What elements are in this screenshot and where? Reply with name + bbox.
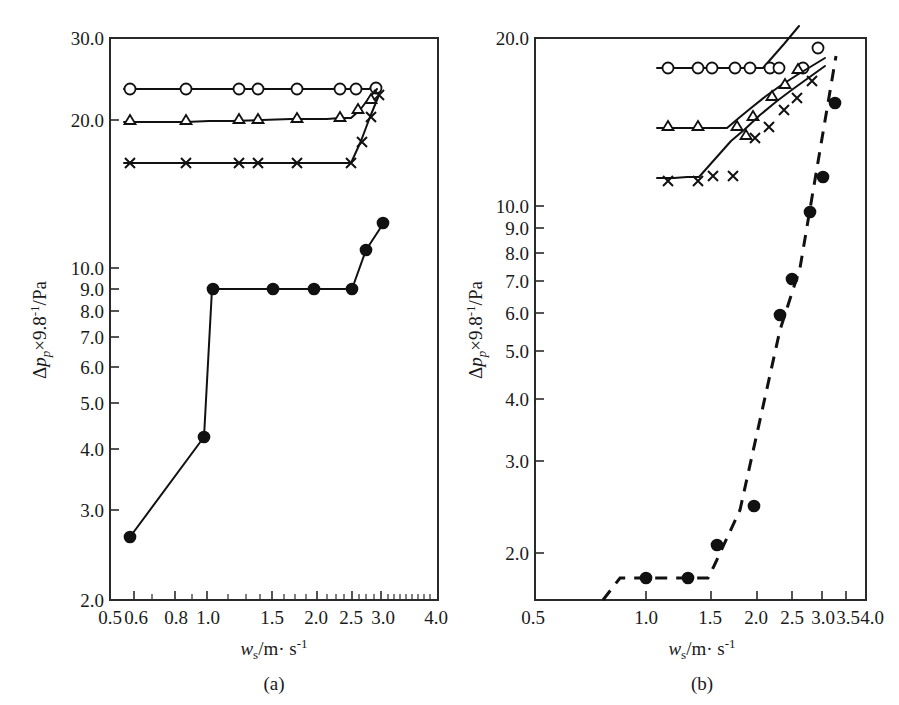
y-tick-2: 2.0 xyxy=(505,543,529,564)
panel-a-x-axis-label: ws/m· s-1 xyxy=(240,636,307,662)
svg-text:Δpp×9.8-1/Pa: Δpp×9.8-1/Pa xyxy=(463,281,489,379)
y-tick-20: 20.0 xyxy=(496,28,529,49)
y-tick-3: 3.0 xyxy=(505,451,529,472)
x-tick-2p5: 2.5 xyxy=(780,607,804,628)
x-tick-0p8: 0.8 xyxy=(164,607,188,628)
x-tick-2p0: 2.0 xyxy=(744,607,768,628)
y-tick-7: 7.0 xyxy=(505,271,529,292)
panel-b-x-ticks xyxy=(535,591,866,600)
panel-b-series-filled-circle-dashed xyxy=(603,56,841,600)
x-tick-1p0: 1.0 xyxy=(634,607,658,628)
panel-a-y-ticks xyxy=(110,38,119,600)
y-tick-9: 9.0 xyxy=(80,279,104,300)
panel-b-x-ticklabels: 0.5 1.0 1.5 2.0 2.5 3.0 3.5 4.0 xyxy=(521,607,884,628)
panel-a: Δpp×9.8-1/Pa 30.0 20.0 xyxy=(0,0,460,705)
panel-a-x-ticks xyxy=(110,591,438,600)
panel-b-y-ticklabels: 20.0 10.0 9.0 8.0 7.0 6.0 5.0 4.0 3.0 2.… xyxy=(496,28,529,564)
panel-b: Δpp×9.8-1/Pa 20.0 10.0 9.0 xyxy=(440,0,899,705)
x-tick-4p0: 4.0 xyxy=(860,607,884,628)
y-tick-5: 5.0 xyxy=(505,341,529,362)
panel-a-y-ticklabels: 30.0 20.0 10.0 9.0 8.0 7.0 6.0 5.0 4.0 3… xyxy=(71,28,104,611)
x-tick-3p0: 3.0 xyxy=(811,607,835,628)
panel-a-x-markers xyxy=(125,90,384,168)
panel-b-x-markers xyxy=(663,76,817,186)
x-tick-0p6: 0.6 xyxy=(124,607,148,628)
x-tick-0p5: 0.5 xyxy=(98,607,122,628)
panel-a-caption: (a) xyxy=(263,673,284,695)
panel-b-y-ticks xyxy=(535,38,544,553)
x-tick-3p0: 3.0 xyxy=(371,607,395,628)
y-tick-10: 10.0 xyxy=(71,258,104,279)
panel-a-y-axis-label: Δpp×9.8-1/Pa xyxy=(27,281,53,379)
y-tick-6: 6.0 xyxy=(80,357,104,378)
y-tick-8: 8.0 xyxy=(80,301,104,322)
y-tick-30: 30.0 xyxy=(71,28,104,49)
svg-text:Δpp×9.8-1/Pa: Δpp×9.8-1/Pa xyxy=(27,281,53,379)
x-tick-0p5: 0.5 xyxy=(521,607,545,628)
x-tick-2p0: 2.0 xyxy=(304,607,328,628)
panel-a-svg: Δpp×9.8-1/Pa 30.0 20.0 xyxy=(0,0,460,705)
y-tick-20: 20.0 xyxy=(71,110,104,131)
panel-a-series-circle xyxy=(124,83,382,95)
y-tick-3: 3.0 xyxy=(80,500,104,521)
y-tick-6: 6.0 xyxy=(505,303,529,324)
y-tick-10: 10.0 xyxy=(496,196,529,217)
x-tick-3p5: 3.5 xyxy=(836,607,860,628)
x-tick-2p5: 2.5 xyxy=(339,607,363,628)
panel-b-x-axis-label: ws/m· s-1 xyxy=(668,636,735,662)
y-tick-4: 4.0 xyxy=(80,439,104,460)
panel-a-x-ticklabels: 0.5 0.6 0.8 1.0 1.5 2.0 2.5 3.0 4.0 xyxy=(98,607,448,628)
panel-a-series-x xyxy=(124,90,384,168)
panel-b-plot-frame xyxy=(535,38,866,600)
panel-a-series-filled-circle xyxy=(124,217,388,542)
panel-b-y-axis-label: Δpp×9.8-1/Pa xyxy=(463,281,489,379)
x-tick-1p5: 1.5 xyxy=(698,607,722,628)
y-tick-5: 5.0 xyxy=(80,393,104,414)
panel-b-svg: Δpp×9.8-1/Pa 20.0 10.0 9.0 xyxy=(440,0,899,705)
y-tick-8: 8.0 xyxy=(505,243,529,264)
y-tick-7: 7.0 xyxy=(80,327,104,348)
y-tick-9: 9.0 xyxy=(505,218,529,239)
x-tick-1p0: 1.0 xyxy=(196,607,220,628)
x-tick-1p5: 1.5 xyxy=(260,607,284,628)
panel-b-caption: (b) xyxy=(691,673,713,695)
figure-two-panel-log-log-plots: Δpp×9.8-1/Pa 30.0 20.0 xyxy=(0,0,899,705)
y-tick-4: 4.0 xyxy=(505,389,529,410)
panel-a-filled-circle-markers xyxy=(124,217,388,542)
